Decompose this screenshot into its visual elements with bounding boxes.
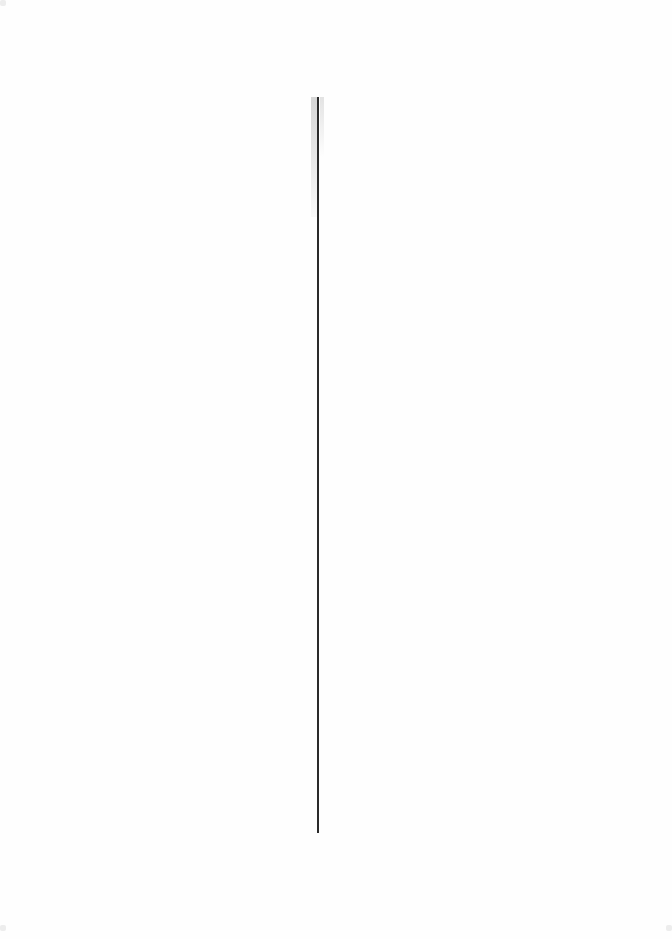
scan-shadow-right xyxy=(320,97,324,157)
scan-artifact xyxy=(0,0,6,6)
scan-artifact xyxy=(666,925,672,931)
vertical-divider-line xyxy=(317,97,319,833)
document-page xyxy=(0,0,672,939)
scan-artifact xyxy=(0,925,6,931)
